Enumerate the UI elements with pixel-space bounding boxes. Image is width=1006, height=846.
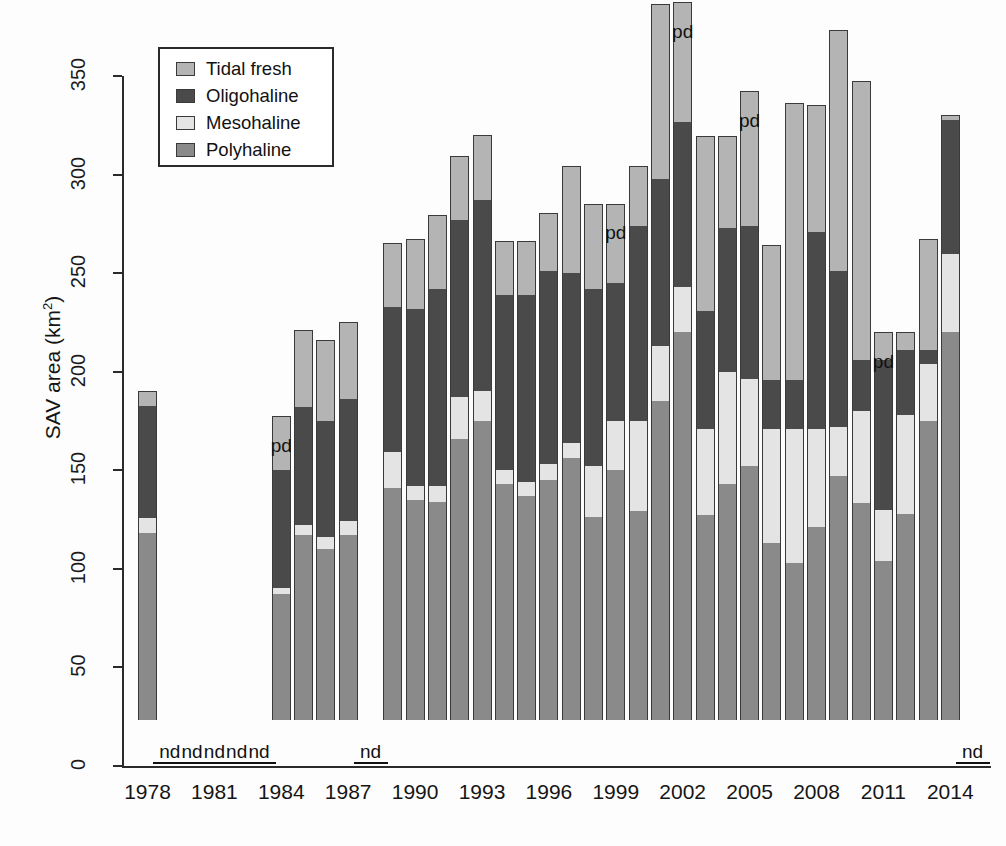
bar-column[interactable] [673, 2, 692, 720]
pd-annotation: pd [660, 22, 706, 41]
bar-column[interactable] [495, 241, 514, 720]
bar-segment-polyhaline [673, 332, 692, 720]
bar-segment-mesohaline [785, 429, 804, 563]
stacked-bar[interactable] [651, 4, 670, 720]
bar-column[interactable] [428, 215, 447, 720]
bar-segment-oligohaline [718, 228, 737, 372]
stacked-bar[interactable] [606, 204, 625, 721]
stacked-bar[interactable] [339, 322, 358, 720]
bar-segment-oligohaline [606, 283, 625, 421]
x-tick-label: 1981 [179, 780, 249, 804]
stacked-bar[interactable] [316, 340, 335, 720]
bar-segment-polyhaline [629, 511, 648, 720]
bar-segment-polyhaline [762, 543, 781, 720]
bar-column[interactable] [651, 4, 670, 720]
y-axis-title: SAV area (km2) [40, 258, 65, 478]
bar-segment-tidal-fresh [428, 216, 447, 289]
bar-column[interactable] [941, 115, 960, 720]
stacked-bar[interactable] [562, 166, 581, 720]
bar-column[interactable] [606, 204, 625, 721]
bar-segment-polyhaline [539, 480, 558, 720]
bar-segment-polyhaline [740, 466, 759, 720]
stacked-bar[interactable] [874, 332, 893, 720]
bar-segment-polyhaline [495, 484, 514, 720]
stacked-bar[interactable] [495, 241, 514, 720]
bar-column[interactable] [339, 322, 358, 720]
legend-item[interactable]: Oligohaline [176, 83, 332, 109]
bar-column[interactable] [562, 166, 581, 720]
bar-column[interactable] [406, 239, 425, 720]
bar-column[interactable] [852, 81, 871, 720]
stacked-bar[interactable] [852, 81, 871, 720]
stacked-bar[interactable] [941, 115, 960, 720]
stacked-bar[interactable] [785, 103, 804, 720]
bar-column[interactable] [919, 239, 938, 720]
bar-segment-tidal-fresh [629, 167, 648, 226]
bar-column[interactable] [473, 135, 492, 721]
bar-column[interactable] [517, 241, 536, 720]
stacked-bar[interactable] [919, 239, 938, 720]
bar-column[interactable] [785, 103, 804, 720]
bar-column[interactable] [874, 332, 893, 720]
bar-segment-polyhaline [316, 549, 335, 720]
stacked-bar[interactable] [896, 332, 915, 720]
stacked-bar[interactable] [807, 105, 826, 720]
bar-column[interactable] [629, 166, 648, 720]
bar-segment-oligohaline [651, 179, 670, 346]
stacked-bar[interactable] [584, 204, 603, 721]
bar-column[interactable] [740, 91, 759, 720]
bar-column[interactable] [539, 213, 558, 720]
stacked-bar[interactable] [406, 239, 425, 720]
bar-segment-oligohaline [138, 406, 157, 518]
stacked-bar[interactable] [428, 215, 447, 720]
bar-segment-oligohaline [941, 120, 960, 254]
bar-segment-polyhaline [606, 470, 625, 720]
stacked-bar[interactable] [272, 416, 291, 720]
legend-item[interactable]: Polyhaline [176, 137, 332, 163]
pd-annotation: pd [727, 111, 773, 130]
bar-column[interactable] [696, 136, 715, 720]
stacked-bar[interactable] [450, 156, 469, 720]
legend-item[interactable]: Mesohaline [176, 110, 332, 136]
bar-segment-oligohaline [450, 220, 469, 397]
stacked-bar[interactable] [517, 241, 536, 720]
bar-column[interactable] [829, 30, 848, 720]
x-tick-label: 2008 [782, 780, 852, 804]
y-tick-label: 100 [67, 544, 90, 590]
bar-segment-oligohaline [383, 307, 402, 453]
stacked-bar[interactable] [383, 243, 402, 720]
legend-item[interactable]: Tidal fresh [176, 56, 332, 82]
stacked-bar[interactable] [740, 91, 759, 720]
stacked-bar[interactable] [829, 30, 848, 720]
bar-column[interactable] [762, 245, 781, 720]
bar-segment-tidal-fresh [696, 137, 715, 310]
bar-column[interactable] [718, 136, 737, 720]
bar-column[interactable] [896, 332, 915, 720]
stacked-bar[interactable] [539, 213, 558, 720]
stacked-bar[interactable] [762, 245, 781, 720]
bar-segment-oligohaline [316, 421, 335, 537]
stacked-bar[interactable] [673, 2, 692, 720]
bar-column[interactable] [138, 391, 157, 720]
bar-column[interactable] [383, 243, 402, 720]
stacked-bar[interactable] [138, 391, 157, 720]
bar-segment-mesohaline [919, 364, 938, 421]
bar-column[interactable] [272, 416, 291, 720]
x-tick-label: 1993 [447, 780, 517, 804]
stacked-bar[interactable] [629, 166, 648, 720]
bar-segment-tidal-fresh [383, 244, 402, 307]
bar-column[interactable] [294, 330, 313, 720]
y-tick-mark [113, 371, 122, 373]
bar-segment-polyhaline [473, 421, 492, 720]
stacked-bar[interactable] [696, 136, 715, 720]
stacked-bar[interactable] [718, 136, 737, 720]
x-tick-label: 2011 [848, 780, 918, 804]
bar-column[interactable] [450, 156, 469, 720]
bar-segment-polyhaline [138, 533, 157, 720]
bar-column[interactable] [316, 340, 335, 720]
bar-column[interactable] [807, 105, 826, 720]
bar-segment-oligohaline [473, 200, 492, 391]
bar-column[interactable] [584, 204, 603, 721]
stacked-bar[interactable] [473, 135, 492, 721]
stacked-bar[interactable] [294, 330, 313, 720]
